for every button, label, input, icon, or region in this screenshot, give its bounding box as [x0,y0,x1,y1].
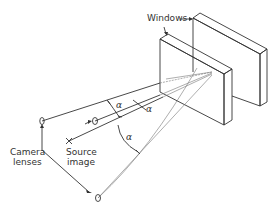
camera-lenses-label-2: lenses [13,157,42,167]
back-window [193,13,267,106]
alpha-label-right: α [146,104,152,114]
camera-motion [40,68,197,198]
alpha-label-bottom: α [126,132,132,142]
windows-label: Windows [147,13,187,23]
camera-lenses-label-1: Camera [10,147,45,157]
source-image-label-1: Source [66,147,97,157]
source-image-label-2: image [67,157,95,167]
alpha-label-top: α [116,100,122,110]
source-image-marker [66,138,72,144]
camera-windows-diagram: Windows Camera lenses Source image α α α [0,0,275,209]
